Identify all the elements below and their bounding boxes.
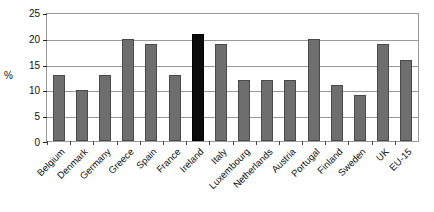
bar-luxembourg[interactable] — [238, 80, 250, 141]
bar-portugal[interactable] — [308, 39, 320, 141]
bar-spain[interactable] — [145, 44, 157, 141]
bar-italy[interactable] — [215, 44, 227, 141]
bar-slot — [395, 14, 418, 141]
bar-slot — [302, 14, 325, 141]
plot-area — [46, 13, 419, 142]
bar-slot — [325, 14, 348, 141]
bar-france[interactable] — [169, 75, 181, 141]
y-tick-label-15: 15 — [18, 59, 40, 70]
y-tick-label-10: 10 — [18, 85, 40, 96]
bar-uk[interactable] — [377, 44, 389, 141]
x-tick-label-france: France — [154, 146, 183, 175]
y-tick-label-0: 0 — [18, 137, 40, 148]
bar-belgium[interactable] — [53, 75, 65, 141]
y-tick-label-25: 25 — [18, 8, 40, 19]
bar-slot — [186, 14, 209, 141]
bar-slot — [279, 14, 302, 141]
bar-sweden[interactable] — [354, 95, 366, 141]
bar-greece[interactable] — [122, 39, 134, 141]
bar-austria[interactable] — [284, 80, 296, 141]
bar-ireland[interactable] — [192, 34, 204, 141]
x-axis-labels: BelgiumDenmarkGermanyGreeceSpainFranceIr… — [46, 144, 419, 210]
bar-finland[interactable] — [331, 85, 343, 141]
bar-eu-15[interactable] — [400, 60, 412, 141]
y-axis-label: % — [4, 70, 13, 81]
bar-slot — [209, 14, 232, 141]
bar-denmark[interactable] — [76, 90, 88, 141]
y-tick-label-20: 20 — [18, 33, 40, 44]
bar-slot — [256, 14, 279, 141]
x-tick-label-greece: Greece — [106, 146, 136, 176]
bar-germany[interactable] — [99, 75, 111, 141]
bar-slot — [348, 14, 371, 141]
x-tick-label-ireland: Ireland — [177, 146, 205, 174]
x-tick-label-uk: UK — [374, 146, 391, 163]
bar-netherlands[interactable] — [261, 80, 273, 141]
bar-slot — [117, 14, 140, 141]
bar-slot — [140, 14, 163, 141]
bar-slot — [163, 14, 186, 141]
bar-slot — [70, 14, 93, 141]
y-tick-label-5: 5 — [18, 111, 40, 122]
bar-slot — [233, 14, 256, 141]
x-tick-label-eu-15: EU-15 — [387, 146, 414, 173]
bar-chart: % 25 20 15 10 5 0 BelgiumDenmarkGermanyG… — [0, 0, 434, 212]
bar-series — [47, 14, 418, 141]
bar-slot — [372, 14, 395, 141]
bar-slot — [93, 14, 116, 141]
bar-slot — [47, 14, 70, 141]
